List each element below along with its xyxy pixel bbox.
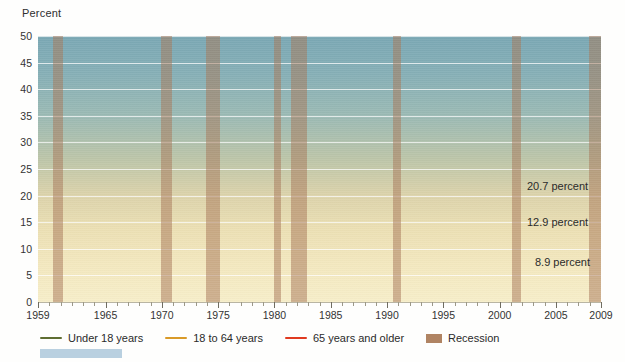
x-axis-tick-minor [184, 302, 185, 306]
x-axis-tick-major [106, 302, 107, 308]
y-axis-tick-label: 20 [10, 190, 32, 202]
y-axis-tick-label: 10 [10, 243, 32, 255]
x-axis-tick-minor [522, 302, 523, 306]
y-axis-tick-label: 35 [10, 110, 32, 122]
x-axis-tick-minor [533, 302, 534, 306]
chart-root: Percent 05101520253035404550 19591965197… [0, 0, 625, 362]
x-axis-tick-minor [545, 302, 546, 306]
y-axis-tick-label: 40 [10, 83, 32, 95]
x-axis-tick-minor [477, 302, 478, 306]
x-axis-tick-minor [83, 302, 84, 306]
plot-area [38, 36, 601, 302]
x-axis-tick-minor [308, 302, 309, 306]
end-label-65-years-and-older: 8.9 percent [535, 256, 590, 268]
x-axis-tick-label: 2009 [589, 309, 612, 321]
x-axis-tick-minor [61, 302, 62, 306]
x-axis-tick-major [500, 302, 501, 308]
x-axis-tick-minor [207, 302, 208, 306]
legend-label: Recession [448, 332, 499, 344]
x-axis-tick-label: 1980 [263, 309, 286, 321]
x-axis-tick-major [556, 302, 557, 308]
x-axis-tick-minor [421, 302, 422, 306]
x-axis-tick-major [601, 302, 602, 308]
legend-swatch-line-icon [40, 337, 62, 340]
legend-item-under-18-years[interactable]: Under 18 years [40, 332, 143, 344]
x-axis-tick-major [38, 302, 39, 308]
x-axis-tick-major [162, 302, 163, 308]
x-axis-tick-minor [297, 302, 298, 306]
x-axis-tick-label: 2000 [488, 309, 511, 321]
x-axis-tick-major [443, 302, 444, 308]
x-axis-tick-label: 2005 [544, 309, 567, 321]
legend-item-18-to-64-years[interactable]: 18 to 64 years [165, 332, 263, 344]
x-axis-tick-minor [49, 302, 50, 306]
y-axis-tick-label: 25 [10, 163, 32, 175]
footer-artifact-bar [40, 349, 122, 358]
x-axis-tick-minor [151, 302, 152, 306]
x-axis-tick-minor [229, 302, 230, 306]
y-axis-tick-label: 30 [10, 136, 32, 148]
x-axis-tick-major [274, 302, 275, 308]
x-axis-tick-label: 1990 [375, 309, 398, 321]
recession-band [274, 36, 281, 302]
legend-item-65-years-and-older[interactable]: 65 years and older [285, 332, 404, 344]
x-axis-tick-minor [342, 302, 343, 306]
x-axis-tick-minor [72, 302, 73, 306]
x-axis-tick-minor [365, 302, 366, 306]
legend-label: 18 to 64 years [193, 332, 263, 344]
x-axis-tick-minor [567, 302, 568, 306]
x-axis-tick-minor [263, 302, 264, 306]
x-axis-tick-major [218, 302, 219, 308]
legend-swatch-line-icon [165, 337, 187, 340]
x-axis-tick-minor [173, 302, 174, 306]
legend: Under 18 years18 to 64 years65 years and… [40, 330, 521, 346]
recession-band [512, 36, 521, 302]
legend-swatch-line-icon [285, 337, 307, 340]
x-axis-tick-minor [117, 302, 118, 306]
x-axis-tick-label: 1959 [26, 309, 49, 321]
x-axis-tick-minor [320, 302, 321, 306]
x-axis-tick-minor [252, 302, 253, 306]
recession-band [206, 36, 221, 302]
x-axis-tick-minor [455, 302, 456, 306]
end-label-under-18-years: 20.7 percent [527, 180, 588, 192]
x-axis-ticks [38, 302, 601, 308]
recession-band [53, 36, 63, 302]
y-axis-tick-label: 0 [10, 296, 32, 308]
x-axis-tick-minor [196, 302, 197, 306]
recession-band [393, 36, 401, 302]
x-axis-tick-minor [139, 302, 140, 306]
legend-label: 65 years and older [313, 332, 404, 344]
x-axis-tick-minor [353, 302, 354, 306]
y-axis-title: Percent [22, 7, 61, 19]
x-axis-tick-label: 1970 [150, 309, 173, 321]
legend-swatch-box-icon [426, 334, 442, 343]
x-axis-tick-label: 1985 [319, 309, 342, 321]
x-axis-tick-minor [376, 302, 377, 306]
x-axis-tick-label: 1975 [206, 309, 229, 321]
x-axis-tick-minor [286, 302, 287, 306]
y-axis-tick-label: 5 [10, 269, 32, 281]
recession-band [291, 36, 307, 302]
legend-item-recession[interactable]: Recession [426, 332, 499, 344]
x-axis-tick-minor [511, 302, 512, 306]
y-axis-tick-label: 15 [10, 216, 32, 228]
x-axis-tick-minor [432, 302, 433, 306]
x-axis-tick-minor [488, 302, 489, 306]
x-axis-labels: 1959196519701975198019851990199520002005… [0, 309, 625, 325]
recession-band [161, 36, 172, 302]
x-axis-tick-minor [466, 302, 467, 306]
x-axis-tick-minor [590, 302, 591, 306]
x-axis-tick-minor [398, 302, 399, 306]
x-axis-tick-minor [410, 302, 411, 306]
x-axis-tick-label: 1965 [94, 309, 117, 321]
y-axis-tick-label: 45 [10, 57, 32, 69]
x-axis-tick-label: 1995 [432, 309, 455, 321]
x-axis-tick-minor [94, 302, 95, 306]
x-axis-tick-minor [241, 302, 242, 306]
x-axis-tick-major [387, 302, 388, 308]
x-axis-tick-major [331, 302, 332, 308]
x-axis-tick-minor [578, 302, 579, 306]
x-axis-tick-minor [128, 302, 129, 306]
recession-band [589, 36, 601, 302]
